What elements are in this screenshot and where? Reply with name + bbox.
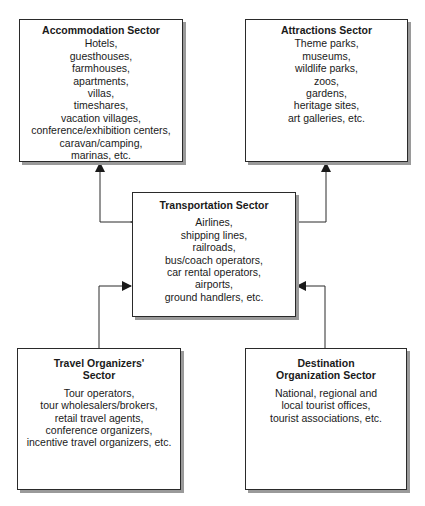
transportation-sector-items: Airlines, shipping lines, railroads, bus… — [133, 216, 295, 303]
accommodation-item: marinas, etc. — [20, 149, 182, 161]
travel-organizers-sector-title: Travel Organizers' Sector — [18, 357, 180, 382]
edge-transportation-accommodation — [100, 163, 131, 222]
attractions-sector-title: Attractions Sector — [246, 24, 407, 36]
destination-organization-sector-title: Destination Organization Sector — [246, 357, 406, 382]
attractions-sector-items: Theme parks, museums, wildlife parks, zo… — [246, 37, 407, 124]
accommodation-item: vacation villages, — [20, 112, 182, 124]
transportation-item: Airlines, — [133, 216, 295, 228]
travel-organizers-item: retail travel agents, — [18, 412, 180, 424]
travel-organizers-item: Tour operators, — [18, 387, 180, 399]
accommodation-item: apartments, — [20, 75, 182, 87]
accommodation-item: villas, — [20, 87, 182, 99]
accommodation-item: Hotels, — [20, 37, 182, 49]
destination-organization-sector-box: Destination Organization Sector National… — [245, 348, 407, 490]
travel-organizers-title-line: Sector — [18, 369, 180, 381]
destination-item: local tourist offices, — [246, 399, 406, 411]
accommodation-item: conference/exhibition centers, — [20, 124, 182, 136]
edge-transportation-attractions — [296, 163, 326, 222]
transportation-item: car rental operators, — [133, 266, 295, 278]
attractions-item: zoos, — [246, 75, 407, 87]
transportation-item: bus/coach operators, — [133, 254, 295, 266]
accommodation-sector-box: Accommodation Sector Hotels, guesthouses… — [19, 19, 183, 162]
transportation-item: railroads, — [133, 241, 295, 253]
transportation-sector-box: Transportation Sector Airlines, shipping… — [132, 192, 296, 317]
transportation-item: airports, — [133, 278, 295, 290]
edge-travel-transportation — [99, 286, 131, 348]
edge-destination-transportation — [297, 286, 325, 348]
destination-item: tourist associations, etc. — [246, 412, 406, 424]
accommodation-item: timeshares, — [20, 99, 182, 111]
destination-item: National, regional and — [246, 387, 406, 399]
attractions-sector-box: Attractions Sector Theme parks, museums,… — [245, 19, 408, 162]
transportation-sector-title: Transportation Sector — [133, 199, 295, 211]
attractions-item: art galleries, etc. — [246, 112, 407, 124]
transportation-item: shipping lines, — [133, 229, 295, 241]
attractions-item: heritage sites, — [246, 99, 407, 111]
attractions-item: wildlife parks, — [246, 62, 407, 74]
attractions-item: gardens, — [246, 87, 407, 99]
travel-organizers-sector-box: Travel Organizers' Sector Tour operators… — [17, 348, 181, 490]
travel-organizers-item: tour wholesalers/brokers, — [18, 399, 180, 411]
attractions-item: Theme parks, — [246, 37, 407, 49]
travel-organizers-item: conference organizers, — [18, 424, 180, 436]
attractions-item: museums, — [246, 50, 407, 62]
destination-title-line: Destination — [246, 357, 406, 369]
accommodation-sector-items: Hotels, guesthouses, farmhouses, apartme… — [20, 37, 182, 161]
destination-organization-sector-items: National, regional and local tourist off… — [246, 387, 406, 424]
accommodation-sector-title: Accommodation Sector — [20, 24, 182, 36]
transportation-item: ground handlers, etc. — [133, 291, 295, 303]
travel-organizers-sector-items: Tour operators, tour wholesalers/brokers… — [18, 387, 180, 449]
travel-organizers-title-line: Travel Organizers' — [18, 357, 180, 369]
accommodation-item: guesthouses, — [20, 50, 182, 62]
accommodation-item: farmhouses, — [20, 62, 182, 74]
travel-organizers-item: incentive travel organizers, etc. — [18, 436, 180, 448]
destination-title-line: Organization Sector — [246, 369, 406, 381]
accommodation-item: caravan/camping, — [20, 137, 182, 149]
